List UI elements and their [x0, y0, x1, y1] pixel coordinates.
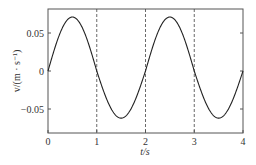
- x-tick-label: 4: [241, 136, 246, 147]
- y-tick-label: −0.05: [21, 104, 44, 115]
- x-axis-label: t/s: [140, 146, 150, 157]
- velocity-time-chart: −0.0500.05 01234 t/s v/(m · s⁻¹): [0, 0, 256, 165]
- x-tick-label: 3: [192, 136, 197, 147]
- y-axis-ticks: −0.0500.05: [21, 28, 243, 115]
- y-axis-label: v/(m · s⁻¹): [11, 50, 23, 92]
- y-tick-label: 0.05: [27, 28, 45, 39]
- x-tick-label: 0: [46, 136, 51, 147]
- y-tick-label: 0: [39, 66, 44, 77]
- x-tick-label: 1: [94, 136, 99, 147]
- velocity-curve: [48, 17, 243, 118]
